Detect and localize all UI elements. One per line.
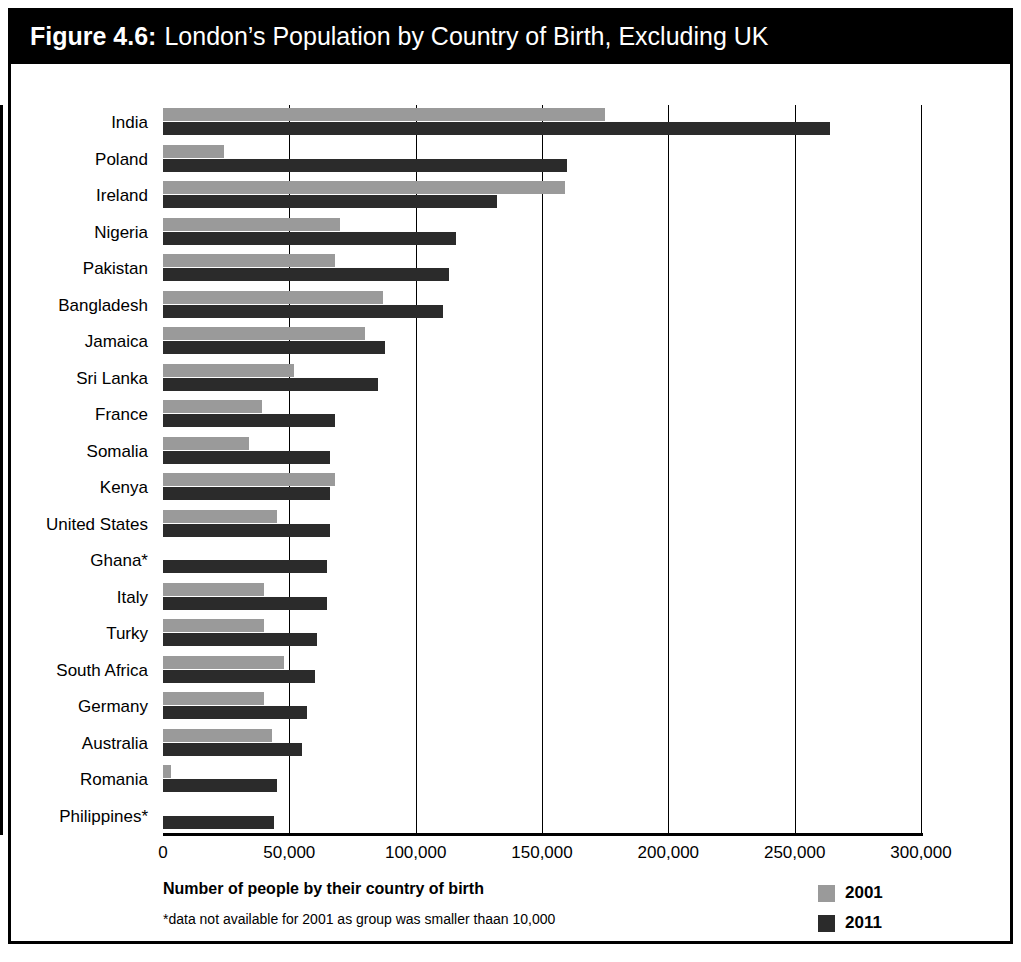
bar-2001 bbox=[163, 765, 171, 778]
bar-row bbox=[163, 215, 921, 250]
bar-2001 bbox=[163, 364, 294, 377]
category-label: Germany bbox=[0, 698, 148, 715]
bar-row bbox=[163, 105, 921, 140]
bar-2011 bbox=[163, 378, 378, 391]
bar-2001 bbox=[163, 254, 335, 267]
bar-2011 bbox=[163, 487, 330, 500]
bar-row bbox=[163, 653, 921, 688]
bar-2001 bbox=[163, 656, 284, 669]
bar-2011 bbox=[163, 816, 274, 829]
bar-2011 bbox=[163, 159, 567, 172]
bar-2011 bbox=[163, 670, 315, 683]
x-tick-label: 50,000 bbox=[263, 843, 315, 863]
bar-row bbox=[163, 397, 921, 432]
bar-2001 bbox=[163, 583, 264, 596]
bar-2011 bbox=[163, 195, 497, 208]
category-label: Jamaica bbox=[0, 333, 148, 350]
x-tick-label: 250,000 bbox=[764, 843, 825, 863]
bar-2011 bbox=[163, 122, 830, 135]
bar-2001 bbox=[163, 327, 365, 340]
legend-item: 2011 bbox=[818, 908, 978, 938]
category-label: South Africa bbox=[0, 662, 148, 679]
bar-2001 bbox=[163, 619, 264, 632]
bar-2011 bbox=[163, 305, 443, 318]
bar-row bbox=[163, 762, 921, 797]
category-label: Bangladesh bbox=[0, 297, 148, 314]
bar-2011 bbox=[163, 232, 456, 245]
bar-row bbox=[163, 324, 921, 359]
bar-row bbox=[163, 470, 921, 505]
bar-row bbox=[163, 288, 921, 323]
bar-2001 bbox=[163, 145, 224, 158]
bar-row bbox=[163, 507, 921, 542]
bar-2011 bbox=[163, 597, 327, 610]
chart-legend: 20012011 bbox=[818, 878, 978, 938]
figure-container: Figure 4.6: London’s Population by Count… bbox=[0, 0, 1021, 962]
bar-2011 bbox=[163, 560, 327, 573]
bar-2011 bbox=[163, 451, 330, 464]
bar-2001 bbox=[163, 291, 383, 304]
bar-row bbox=[163, 178, 921, 213]
bar-2011 bbox=[163, 268, 449, 281]
bar-2011 bbox=[163, 633, 317, 646]
bar-2001 bbox=[163, 729, 272, 742]
category-label: Australia bbox=[0, 735, 148, 752]
category-label: Ireland bbox=[0, 187, 148, 204]
bar-2011 bbox=[163, 341, 385, 354]
bar-2011 bbox=[163, 414, 335, 427]
bar-row bbox=[163, 689, 921, 724]
bar-row bbox=[163, 616, 921, 651]
figure-footnote: *data not available for 2001 as group wa… bbox=[163, 911, 555, 927]
category-label: Nigeria bbox=[0, 224, 148, 241]
x-tick-label: 150,000 bbox=[511, 843, 572, 863]
legend-label: 2001 bbox=[845, 883, 883, 903]
x-tick-label: 200,000 bbox=[638, 843, 699, 863]
bar-row bbox=[163, 543, 921, 578]
category-label: Sri Lanka bbox=[0, 370, 148, 387]
x-axis-caption: Number of people by their country of bir… bbox=[163, 880, 484, 898]
bar-2001 bbox=[163, 400, 262, 413]
legend-swatch-icon bbox=[818, 915, 835, 932]
category-label: Kenya bbox=[0, 479, 148, 496]
category-label: Italy bbox=[0, 589, 148, 606]
bar-row bbox=[163, 580, 921, 615]
x-tick-label: 300,000 bbox=[890, 843, 951, 863]
bar-2001 bbox=[163, 218, 340, 231]
bar-2001 bbox=[163, 692, 264, 705]
category-label: Philippines* bbox=[0, 808, 148, 825]
bar-2001 bbox=[163, 510, 277, 523]
bar-2001 bbox=[163, 181, 565, 194]
y-axis-line bbox=[0, 105, 3, 835]
bar-2011 bbox=[163, 779, 277, 792]
x-tick-label: 0 bbox=[158, 843, 167, 863]
bar-row bbox=[163, 726, 921, 761]
chart-area: IndiaPolandIrelandNigeriaPakistanBanglad… bbox=[0, 0, 1021, 962]
category-label: Pakistan bbox=[0, 260, 148, 277]
bar-row bbox=[163, 142, 921, 177]
gridline bbox=[921, 105, 922, 835]
bar-2001 bbox=[163, 437, 249, 450]
plot-region bbox=[163, 105, 921, 835]
bar-2011 bbox=[163, 706, 307, 719]
category-label: Ghana* bbox=[0, 552, 148, 569]
category-label: Somalia bbox=[0, 443, 148, 460]
bar-row bbox=[163, 251, 921, 286]
category-label: India bbox=[0, 114, 148, 131]
x-tick-label: 100,000 bbox=[385, 843, 446, 863]
bar-2011 bbox=[163, 743, 302, 756]
legend-swatch-icon bbox=[818, 885, 835, 902]
bar-row bbox=[163, 799, 921, 834]
category-label: Poland bbox=[0, 151, 148, 168]
category-label: United States bbox=[0, 516, 148, 533]
bar-2001 bbox=[163, 108, 605, 121]
category-label: Turky bbox=[0, 625, 148, 642]
category-label: Romania bbox=[0, 771, 148, 788]
bar-2001 bbox=[163, 473, 335, 486]
category-label: France bbox=[0, 406, 148, 423]
legend-item: 2001 bbox=[818, 878, 978, 908]
bar-2011 bbox=[163, 524, 330, 537]
bar-row bbox=[163, 434, 921, 469]
bar-row bbox=[163, 361, 921, 396]
legend-label: 2011 bbox=[845, 913, 882, 933]
